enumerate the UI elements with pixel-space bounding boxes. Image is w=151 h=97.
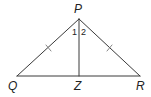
angle-label-1: 1 — [72, 27, 77, 37]
triangle-diagram: P Q Z R 1 2 — [0, 0, 151, 97]
vertex-label-q: Q — [8, 79, 17, 93]
angle-label-2: 2 — [81, 27, 86, 37]
vertex-label-z: Z — [73, 79, 82, 93]
vertex-label-p: P — [74, 2, 82, 16]
vertex-label-r: R — [136, 79, 145, 93]
